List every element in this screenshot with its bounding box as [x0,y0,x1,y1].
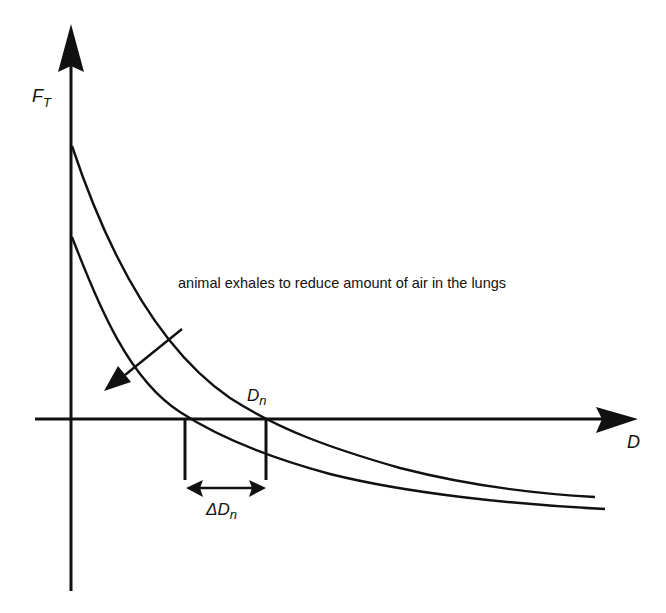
upper-curve [72,146,595,497]
diagram-canvas [0,0,666,613]
delta-label: ΔDn [206,500,237,522]
dn-label-sub: n [259,393,266,408]
y-axis-label: FT [32,86,51,110]
x-axis-arrowhead-icon [596,407,638,433]
annotation-arrow [125,329,182,375]
annotation-text: animal exhales to reduce amount of air i… [178,275,506,291]
y-axis-label-main: F [32,86,43,106]
x-axis-label: D [627,432,640,453]
annotation-arrowhead-icon [104,366,131,391]
y-axis-label-sub: T [43,95,51,110]
delta-label-sub: n [230,507,237,522]
dn-label-main: D [247,386,259,405]
y-axis-arrowhead-icon [58,24,84,72]
dn-label: Dn [247,386,267,408]
delta-label-main: ΔD [206,500,230,519]
